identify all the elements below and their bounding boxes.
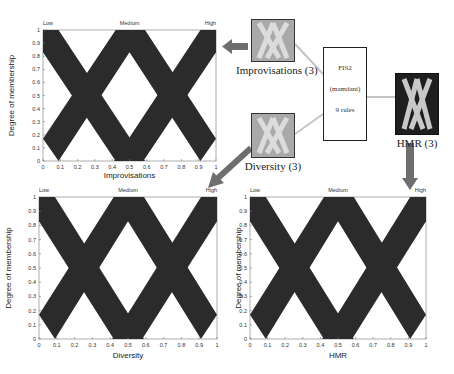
fis-type: (mamdani) [324, 85, 366, 93]
svg-text:0.1: 0.1 [264, 342, 272, 348]
svg-text:0.7: 0.7 [32, 66, 40, 72]
svg-text:1: 1 [37, 27, 40, 33]
y-axis-label: Degree of membership [4, 227, 13, 309]
svg-text:0.5: 0.5 [334, 342, 342, 348]
svg-text:0.7: 0.7 [160, 342, 168, 348]
fis-name: FIS2 [324, 64, 366, 72]
svg-text:0: 0 [248, 342, 251, 348]
svg-text:0.9: 0.9 [195, 342, 203, 348]
svg-text:0.5: 0.5 [28, 265, 36, 271]
svg-text:0.6: 0.6 [142, 342, 150, 348]
x-axis-label: Improvisations [104, 171, 156, 180]
svg-text:0.4: 0.4 [317, 342, 325, 348]
svg-text:0.9: 0.9 [239, 208, 247, 214]
svg-text:0.9: 0.9 [32, 40, 40, 46]
mf-label-low: Low [250, 187, 260, 193]
svg-text:0.3: 0.3 [89, 342, 97, 348]
svg-text:1: 1 [244, 194, 247, 200]
svg-text:0.3: 0.3 [299, 342, 307, 348]
svg-text:0.6: 0.6 [32, 79, 40, 85]
svg-text:1: 1 [424, 342, 427, 348]
connector-diversity-fis [295, 114, 323, 134]
svg-text:0.5: 0.5 [126, 164, 134, 170]
svg-text:0.2: 0.2 [281, 342, 289, 348]
plot-hmr: 00.10.20.30.40.50.60.70.80.9100.10.20.30… [230, 180, 454, 374]
input-label-improvisations: Improvisations (3) [236, 64, 312, 76]
mf-label-low: Low [39, 187, 49, 193]
svg-text:0.5: 0.5 [124, 342, 132, 348]
mf-label-high: High [415, 187, 426, 193]
svg-text:0.2: 0.2 [71, 342, 79, 348]
svg-text:0.4: 0.4 [32, 106, 40, 112]
svg-text:0.6: 0.6 [28, 251, 36, 257]
mf-thumbnail-icon [251, 113, 295, 158]
mf-label-medium: Medium [118, 187, 138, 193]
svg-text:0.7: 0.7 [369, 342, 377, 348]
svg-text:0.2: 0.2 [28, 308, 36, 314]
svg-text:0.8: 0.8 [28, 222, 36, 228]
svg-text:0.6: 0.6 [143, 164, 151, 170]
svg-text:0.1: 0.1 [28, 322, 36, 328]
svg-text:0.5: 0.5 [32, 93, 40, 99]
plot-hmr-canvas: 00.10.20.30.40.50.60.70.80.9100.10.20.30… [230, 180, 454, 374]
plot-improvisations-canvas: 00.10.20.30.40.50.60.70.80.9100.10.20.30… [0, 0, 230, 180]
svg-text:1: 1 [215, 342, 218, 348]
svg-text:0.7: 0.7 [160, 164, 168, 170]
svg-text:0.4: 0.4 [28, 279, 36, 285]
x-axis-label: HMR [329, 351, 347, 360]
svg-text:0: 0 [37, 342, 40, 348]
svg-text:0: 0 [244, 336, 247, 342]
svg-text:0.8: 0.8 [178, 164, 186, 170]
svg-text:0.9: 0.9 [195, 164, 203, 170]
plot-diversity-canvas: 00.10.20.30.40.50.60.70.80.9100.10.20.30… [0, 180, 230, 374]
svg-text:0.8: 0.8 [32, 53, 40, 59]
mf-label-medium: Medium [328, 187, 348, 193]
svg-text:0.1: 0.1 [239, 322, 247, 328]
svg-text:0.3: 0.3 [32, 119, 40, 125]
svg-text:0: 0 [37, 158, 40, 164]
y-axis-label: Degree of membership [234, 227, 243, 309]
input-label-diversity: Diversity (3) [240, 160, 306, 172]
svg-text:0.9: 0.9 [28, 208, 36, 214]
svg-text:0: 0 [41, 164, 44, 170]
svg-text:0.6: 0.6 [352, 342, 360, 348]
svg-text:0.4: 0.4 [106, 342, 114, 348]
svg-text:0.2: 0.2 [32, 132, 40, 138]
input-block-improvisations[interactable] [251, 19, 295, 62]
svg-text:0.8: 0.8 [387, 342, 395, 348]
plot-improvisations: 00.10.20.30.40.50.60.70.80.9100.10.20.30… [0, 0, 230, 180]
svg-text:0.8: 0.8 [178, 342, 186, 348]
output-label-hmr: HMR (3) [390, 137, 444, 149]
mf-label-high: High [206, 187, 217, 193]
fis-rules: 9 rules [324, 106, 366, 114]
svg-text:0.2: 0.2 [74, 164, 82, 170]
svg-text:0.3: 0.3 [28, 293, 36, 299]
svg-text:1: 1 [33, 194, 36, 200]
svg-text:0.1: 0.1 [56, 164, 64, 170]
fis-block[interactable]: FIS2 (mamdani) 9 rules [323, 47, 367, 141]
plot-diversity: 00.10.20.30.40.50.60.70.80.9100.10.20.30… [0, 180, 230, 374]
svg-text:0.1: 0.1 [53, 342, 61, 348]
svg-text:0.9: 0.9 [405, 342, 413, 348]
output-block-hmr[interactable] [395, 73, 439, 135]
input-block-diversity[interactable] [251, 113, 295, 158]
svg-text:0.3: 0.3 [91, 164, 99, 170]
mf-thumbnail-icon [251, 19, 295, 62]
svg-text:0: 0 [33, 336, 36, 342]
svg-text:1: 1 [214, 164, 217, 170]
mf-label-high: High [205, 20, 216, 26]
mf-label-medium: Medium [120, 20, 140, 26]
mf-label-low: Low [43, 20, 53, 26]
svg-text:0.7: 0.7 [28, 237, 36, 243]
mf-thumbnail-icon [395, 73, 439, 135]
y-axis-label: Degree of membership [7, 54, 16, 136]
svg-text:0.4: 0.4 [108, 164, 116, 170]
svg-text:0.1: 0.1 [32, 145, 40, 151]
x-axis-label: Diversity [113, 351, 144, 360]
